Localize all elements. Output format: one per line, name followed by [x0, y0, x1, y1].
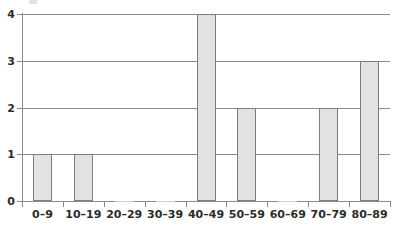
x-tick-mark: [390, 202, 391, 207]
x-tick-label: 30–39: [145, 209, 186, 220]
x-tick-mark: [349, 202, 350, 207]
x-tick-label: 40–49: [186, 209, 227, 220]
bar: [33, 154, 52, 201]
x-tick-mark: [63, 202, 64, 207]
y-tick-mark-3: [17, 61, 23, 62]
bar: [360, 61, 379, 201]
y-tick-label-3: 3: [1, 56, 15, 67]
y-tick-mark-4: [17, 14, 23, 15]
x-tick-label: 70–79: [308, 209, 349, 220]
bar: [197, 14, 216, 201]
x-tick-mark: [226, 202, 227, 207]
bar-zero-marker: [278, 201, 297, 202]
y-tick-mark-2: [17, 108, 23, 109]
x-tick-label: 60–69: [267, 209, 308, 220]
bar: [74, 154, 93, 201]
x-tick-label: 20–29: [104, 209, 145, 220]
bar: [319, 108, 338, 202]
bar-zero-marker: [115, 201, 134, 202]
clipped-label-artifact: [29, 0, 37, 4]
x-tick-mark: [22, 202, 23, 207]
x-tick-mark: [145, 202, 146, 207]
x-tick-label: 0–9: [22, 209, 63, 220]
y-tick-label-0: 0: [1, 196, 15, 207]
y-tick-label-4: 4: [1, 9, 15, 20]
y-tick-label-2: 2: [1, 103, 15, 114]
x-tick-mark: [186, 202, 187, 207]
x-tick-label: 10–19: [63, 209, 104, 220]
x-tick-mark: [104, 202, 105, 207]
x-tick-label: 80–89: [349, 209, 390, 220]
bar: [237, 108, 256, 202]
x-tick-mark: [267, 202, 268, 207]
x-axis-line: [22, 201, 391, 202]
histogram-chart: 0 1 2 3 4 0–910–1920–2930–3940–4950–5960…: [0, 0, 397, 232]
y-tick-mark-1: [17, 154, 23, 155]
y-tick-label-1: 1: [1, 149, 15, 160]
x-tick-label: 50–59: [226, 209, 267, 220]
x-tick-mark: [308, 202, 309, 207]
bar-zero-marker: [156, 201, 175, 202]
